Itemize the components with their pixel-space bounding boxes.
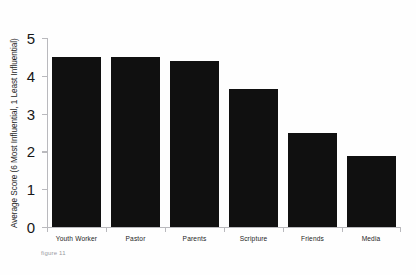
y-tick-label-5: 5	[27, 30, 35, 45]
bar-media	[347, 156, 396, 227]
x-tick-2	[165, 227, 166, 232]
y-tick-3: 3	[42, 114, 48, 115]
x-tick-3	[224, 227, 225, 232]
bar-pastor	[111, 57, 160, 227]
plot-area: 0 1 2 3 4 5 Youth Worker	[47, 30, 401, 227]
y-tick-5: 5	[42, 38, 48, 39]
x-tick-label-youth-worker: Youth Worker	[47, 236, 106, 243]
x-tick-label-media: Media	[342, 236, 400, 243]
x-tick-label-scripture: Scripture	[224, 236, 283, 243]
x-tick-1	[106, 227, 107, 232]
y-tick-1: 1	[42, 189, 48, 190]
x-tick-4	[283, 227, 284, 232]
chart-title	[70, 0, 360, 4]
figure-container: Average Score (6 Most Influential, 1 Lea…	[0, 0, 416, 275]
bar-parents	[170, 61, 219, 228]
y-axis-line	[47, 38, 48, 227]
y-tick-label-1: 1	[27, 182, 35, 197]
y-axis-title-text: Average Score (6 Most Influential, 1 Lea…	[11, 38, 19, 228]
bar-youth-worker	[52, 57, 101, 227]
y-tick-label-3: 3	[27, 106, 35, 121]
figure-caption: figure 11	[41, 250, 66, 256]
y-tick-4: 4	[42, 76, 48, 77]
x-tick-0	[47, 227, 48, 232]
y-axis-title: Average Score (6 Most Influential, 1 Lea…	[0, 0, 18, 232]
y-tick-label-4: 4	[27, 68, 35, 83]
bar-scripture	[229, 89, 278, 227]
x-tick-label-pastor: Pastor	[106, 236, 165, 243]
x-tick-label-parents: Parents	[165, 236, 224, 243]
y-tick-label-0: 0	[27, 220, 35, 235]
bar-friends	[288, 133, 337, 227]
x-tick-5	[342, 227, 343, 232]
y-tick-label-2: 2	[27, 144, 35, 159]
x-tick-label-friends: Friends	[283, 236, 342, 243]
x-tick-6	[400, 227, 401, 232]
y-tick-2: 2	[42, 151, 48, 152]
